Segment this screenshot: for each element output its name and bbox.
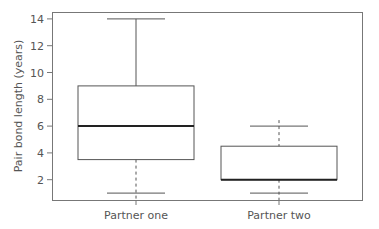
y-tick-label: 12 (30, 40, 44, 53)
x-axis: Partner onePartner two (104, 201, 311, 223)
plot-frame (53, 13, 363, 201)
box-plot-chart: 2468101214 Pair bond length (years) Part… (0, 0, 379, 229)
y-tick-label: 8 (37, 93, 44, 106)
y-tick-label: 2 (37, 174, 44, 187)
iqr-box (78, 86, 194, 160)
y-tick-label: 10 (30, 67, 44, 80)
box-2 (221, 120, 337, 200)
iqr-box (221, 146, 337, 180)
y-tick-label: 14 (30, 13, 44, 26)
x-category-label: Partner two (247, 209, 311, 222)
y-tick-label: 6 (37, 120, 44, 133)
y-tick-label: 4 (37, 147, 44, 160)
y-axis-title: Pair bond length (years) (12, 40, 25, 173)
box-1 (78, 19, 194, 200)
x-category-label: Partner one (104, 209, 168, 222)
y-axis: 2468101214 (30, 13, 53, 187)
boxes (78, 19, 337, 200)
